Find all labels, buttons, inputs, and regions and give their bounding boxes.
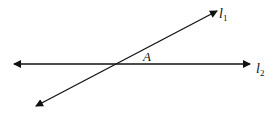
intersecting-lines-diagram: l1 l2 A bbox=[0, 0, 276, 114]
line-l1 bbox=[36, 11, 217, 106]
label-l1: l1 bbox=[219, 6, 227, 23]
label-l2: l2 bbox=[256, 61, 264, 78]
label-point-a: A bbox=[142, 49, 151, 64]
